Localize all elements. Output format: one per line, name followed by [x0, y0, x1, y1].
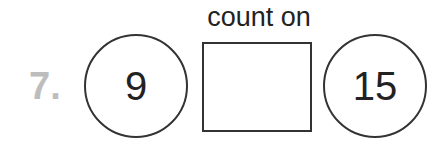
- problem-number: 7.: [29, 66, 61, 106]
- instruction-label: count on: [200, 2, 318, 32]
- start-number: 9: [125, 64, 147, 109]
- start-number-circle: 9: [84, 34, 188, 138]
- end-number: 15: [353, 64, 398, 109]
- answer-box[interactable]: [202, 42, 312, 132]
- end-number-circle: 15: [323, 34, 427, 138]
